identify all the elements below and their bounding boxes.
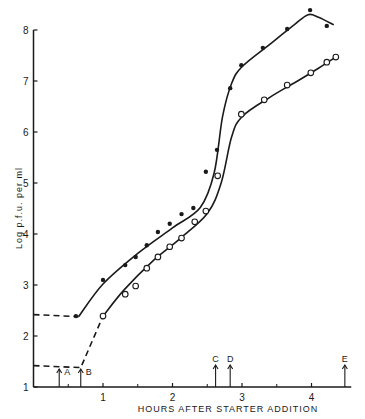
open-data-point	[308, 70, 314, 76]
x-tick-label: 4	[309, 392, 315, 403]
open-data-point	[133, 283, 139, 289]
y-tick-label: 7	[23, 76, 29, 87]
filled-data-point	[204, 170, 208, 174]
open-data-point	[192, 219, 198, 225]
filled-data-point	[191, 206, 195, 210]
x-tick-label: 3	[239, 392, 245, 403]
open-data-point	[122, 291, 128, 297]
open-data-point	[284, 82, 290, 88]
filled-data-point	[285, 27, 289, 31]
curve-filled-series	[79, 14, 334, 316]
open-data-point	[179, 235, 185, 241]
annotation-label-e: E	[342, 354, 348, 364]
filled-data-point	[145, 243, 149, 247]
annotation-label-a: A	[64, 367, 70, 377]
dashed-baseline-filled	[34, 315, 79, 317]
filled-data-point	[325, 24, 329, 28]
open-data-point	[144, 265, 150, 271]
annotation-label-b: B	[86, 367, 92, 377]
y-tick-label: 8	[23, 25, 29, 36]
open-data-point	[215, 173, 221, 179]
x-tick-label: 2	[170, 392, 176, 403]
chart: 123456781234 ABCDE HOURS AFTER STARTER A…	[0, 0, 365, 419]
filled-data-point	[168, 222, 172, 226]
y-tick-label: 6	[23, 127, 29, 138]
annotation-label-c: C	[212, 354, 219, 364]
filled-data-point	[74, 314, 78, 318]
open-data-point	[261, 97, 267, 103]
dashed-baseline-open	[34, 316, 104, 368]
open-data-point	[167, 244, 173, 250]
y-tick-label: 1	[23, 382, 29, 393]
axes: 123456781234	[23, 25, 351, 403]
open-data-point	[203, 208, 209, 214]
filled-data-point	[239, 63, 243, 67]
data-points	[74, 8, 339, 319]
x-tick-label: 1	[100, 392, 106, 403]
filled-data-point	[215, 148, 219, 152]
filled-data-point	[101, 278, 105, 282]
filled-data-point	[156, 230, 160, 234]
y-axis-title: Log p.f.u. per ml	[14, 167, 24, 249]
open-data-point	[239, 111, 245, 117]
filled-data-point	[179, 212, 183, 216]
open-data-point	[333, 54, 339, 60]
open-data-point	[155, 254, 161, 260]
filled-data-point	[308, 8, 312, 12]
filled-data-point	[133, 255, 137, 259]
annotation-label-d: D	[227, 354, 234, 364]
open-data-point	[324, 59, 330, 65]
filled-data-point	[123, 263, 127, 267]
filled-data-point	[228, 86, 232, 90]
curve-open-series	[103, 57, 336, 316]
curves	[34, 14, 336, 367]
y-tick-label: 2	[23, 331, 29, 342]
annotations: ABCDE	[57, 354, 348, 387]
open-data-point	[100, 313, 106, 319]
x-axis-title: HOURS AFTER STARTER ADDITION	[138, 404, 319, 414]
filled-data-point	[261, 46, 265, 50]
y-tick-label: 3	[23, 280, 29, 291]
